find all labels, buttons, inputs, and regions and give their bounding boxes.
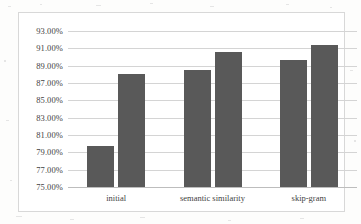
y-axis-tick-label: 85.00% [36,95,63,105]
y-axis-tick-label: 87.00% [36,78,63,88]
bar [280,60,307,187]
category-label: semantic similarity [180,193,245,203]
y-axis-tick-label: 77.00% [36,165,63,175]
category-axis-labels: initialsemantic similarityskip-gram [68,187,357,209]
y-axis-tick-label: 79.00% [36,147,63,157]
y-axis-tick-label: 81.00% [36,130,63,140]
chart-plot-frame: 75.00%77.00%79.00%81.00%83.00%85.00%87.0… [18,12,345,212]
bar [87,146,114,187]
bar [311,45,338,187]
bar [215,52,242,187]
y-axis-tick-label: 83.00% [36,113,63,123]
category-label: skip-gram [292,193,326,203]
y-axis-tick-label: 91.00% [36,43,63,53]
y-axis-tick-label: 89.00% [36,61,63,71]
y-axis-tick-label: 93.00% [36,26,63,36]
bar [184,70,211,187]
bar [118,74,145,187]
bars-layer [68,31,357,187]
chart-figure: 75.00%77.00%79.00%81.00%83.00%85.00%87.0… [0,0,361,224]
plot-area: 75.00%77.00%79.00%81.00%83.00%85.00%87.0… [68,31,357,187]
y-axis-tick-label: 75.00% [36,182,63,192]
category-label: initial [106,193,126,203]
